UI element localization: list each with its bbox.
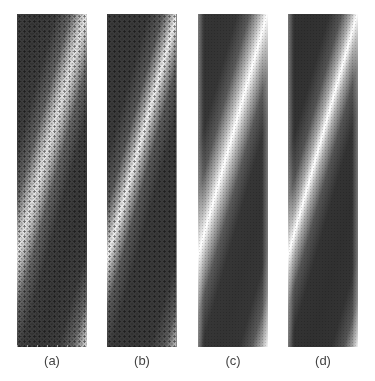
lattice-dot-texture bbox=[107, 14, 177, 347]
panel-b-image bbox=[107, 14, 177, 347]
panel-d-image bbox=[288, 14, 358, 347]
panel-c-image bbox=[198, 14, 268, 347]
panel-label-a: (a) bbox=[17, 353, 87, 368]
edge-fade bbox=[288, 14, 358, 347]
panel-label-b: (b) bbox=[107, 353, 177, 368]
edge-fade bbox=[198, 14, 268, 347]
axis-ticks bbox=[17, 345, 87, 347]
panel-a-image bbox=[17, 14, 87, 347]
panel-label-d: (d) bbox=[288, 353, 358, 368]
panel-border bbox=[176, 14, 177, 347]
noise-grain bbox=[17, 14, 87, 347]
panel-label-c: (c) bbox=[198, 353, 268, 368]
